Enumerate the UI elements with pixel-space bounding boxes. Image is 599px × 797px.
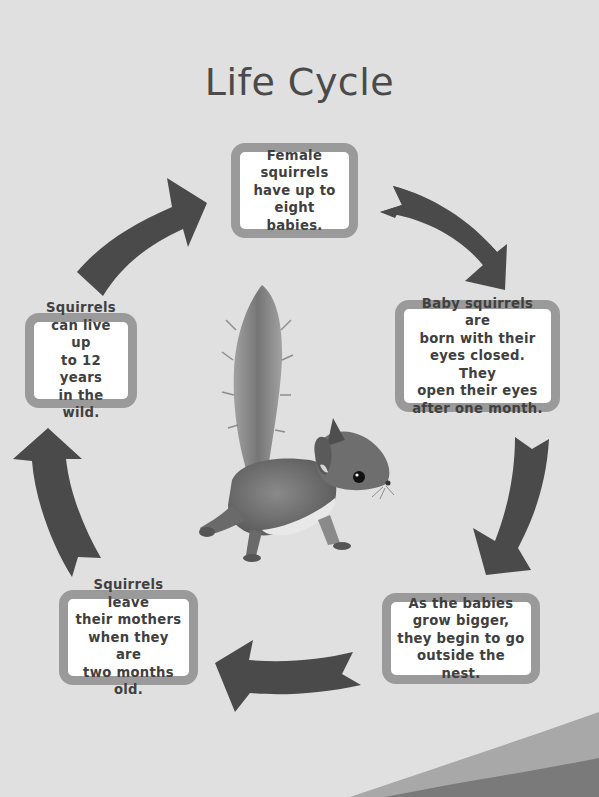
squirrel-eye [353,471,365,483]
squirrel-tail [234,285,282,475]
squirrel-front-leg [318,515,340,545]
stage-box-2: Baby squirrels are born with their eyes … [395,300,560,412]
stage-4-text: Squirrels leave their mothers when they … [74,576,183,699]
squirrel-hind-leg [246,530,262,556]
stage-box-1: Female squirrels have up to eight babies… [231,143,358,238]
stage-5-text: Squirrels can live up to 12 years in the… [40,299,122,422]
stage-1-text: Female squirrels have up to eight babies… [246,147,343,235]
stage-3-text: As the babies grow bigger, they begin to… [397,595,525,683]
squirrel-whiskers [372,486,394,499]
squirrel-nose [386,481,391,486]
stage-box-4: Squirrels leave their mothers when they … [59,590,198,685]
stage-2-text: Baby squirrels are born with their eyes … [410,295,545,418]
stage-box-3: As the babies grow bigger, they begin to… [382,593,540,684]
stage-box-5: Squirrels can live up to 12 years in the… [25,313,137,408]
life-cycle-page: Life Cycle [0,0,599,797]
